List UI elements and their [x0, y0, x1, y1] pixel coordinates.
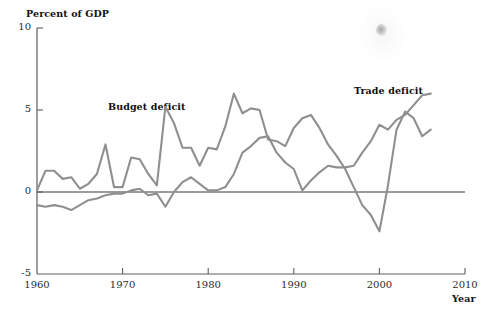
axes-group [37, 28, 465, 274]
series-group [37, 94, 431, 232]
series-line-budget-deficit [37, 94, 431, 232]
series-line-trade-deficit [37, 94, 431, 210]
chart-container: Percent of GDP Year Budget deficit Trade… [0, 0, 490, 313]
plot-area [0, 0, 490, 313]
